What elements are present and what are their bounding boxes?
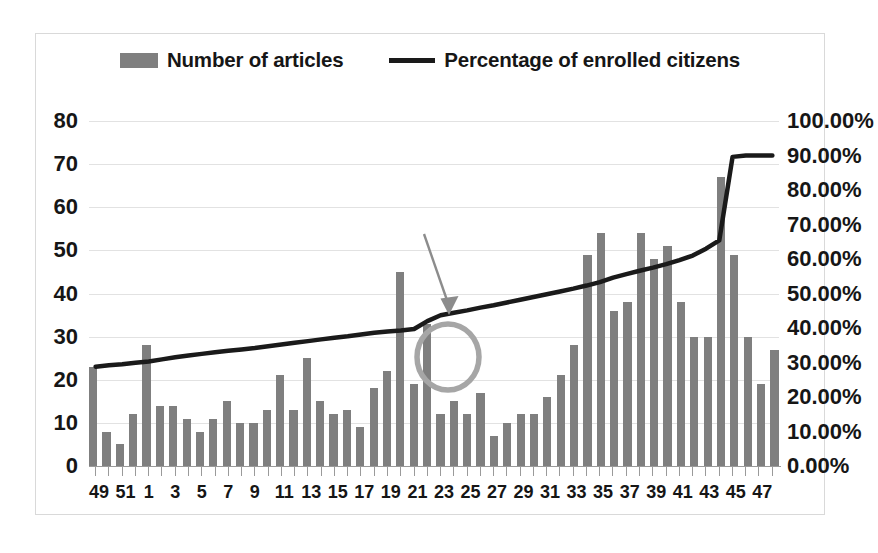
x-axis-tick-label: 31 <box>540 480 553 508</box>
bar <box>303 358 311 466</box>
bar <box>142 345 150 466</box>
bar <box>597 233 605 466</box>
x-axis-tick-mark <box>666 467 667 476</box>
x-axis-tick-label: 25 <box>460 480 473 508</box>
x-axis-tick-mark <box>480 467 481 476</box>
x-axis-tick-label: 43 <box>699 480 712 508</box>
x-axis-tick-mark <box>387 467 388 476</box>
bar <box>570 345 578 466</box>
plot-wrapper <box>89 121 779 466</box>
y-axis-right-tick-label: 0.00% <box>787 455 849 477</box>
y-axis-right-tick-label: 20.00% <box>787 386 862 408</box>
x-axis-tick-mark <box>347 467 348 476</box>
y-axis-right-tick-label: 70.00% <box>787 214 862 236</box>
x-axis-tick-mark <box>254 467 255 476</box>
x-axis-ticks <box>89 467 779 476</box>
legend-label-percentage-of-enrolled-citizens: Percentage of enrolled citizens <box>444 48 740 72</box>
bar <box>650 259 658 466</box>
y-axis-right-tick-label: 10.00% <box>787 421 862 443</box>
x-axis-tick-label: 29 <box>514 480 527 508</box>
bar <box>463 414 471 466</box>
y-axis-right-tick-label: 100.00% <box>787 110 874 132</box>
x-axis-tick-mark <box>705 467 706 476</box>
x-axis-tick-mark <box>374 467 375 476</box>
x-axis-tick-mark <box>108 467 109 476</box>
x-axis-tick-mark <box>639 467 640 476</box>
x-axis-tick-label: 49 <box>89 480 102 508</box>
y-axis-left-tick-label: 20 <box>54 369 78 391</box>
bar <box>757 384 765 466</box>
x-axis-tick-mark <box>414 467 415 476</box>
plot-area <box>89 121 779 466</box>
bar <box>610 311 618 466</box>
x-axis-tick-mark <box>241 467 242 476</box>
x-axis-tick-mark <box>440 467 441 476</box>
bar <box>183 419 191 466</box>
y-axis-left-tick-label: 50 <box>54 239 78 261</box>
bar <box>704 337 712 466</box>
x-axis-tick-mark <box>546 467 547 476</box>
x-axis-tick-mark <box>719 467 720 476</box>
bar <box>410 384 418 466</box>
x-axis-tick-label: 9 <box>248 480 261 508</box>
x-axis-tick-mark <box>573 467 574 476</box>
bar <box>423 324 431 466</box>
bar <box>770 350 778 466</box>
bar <box>637 233 645 466</box>
bar <box>223 401 231 466</box>
bar <box>156 406 164 466</box>
bar <box>396 272 404 466</box>
x-axis-labels: 49.51.1.3.5.7.9.11.13.15.17.19.21.23.25.… <box>89 480 779 508</box>
x-axis-tick-mark <box>453 467 454 476</box>
legend-entry-number-of-articles: Number of articles <box>120 48 343 72</box>
bar <box>196 432 204 467</box>
x-axis-tick-mark <box>745 467 746 476</box>
x-axis-tick-label: 41 <box>673 480 686 508</box>
bar <box>517 414 525 466</box>
x-axis-tick-label: 13 <box>301 480 314 508</box>
x-axis-tick-mark <box>599 467 600 476</box>
bar <box>343 410 351 466</box>
bar <box>690 337 698 466</box>
x-axis-tick-mark <box>175 467 176 476</box>
x-axis-tick-label: 27 <box>487 480 500 508</box>
bar <box>543 397 551 466</box>
x-axis-tick-mark <box>161 467 162 476</box>
x-axis-tick-mark <box>268 467 269 476</box>
x-axis-tick-label: 17 <box>354 480 367 508</box>
x-axis-tick-mark <box>95 467 96 476</box>
y-axis-right-tick-label: 40.00% <box>787 317 862 339</box>
bar <box>663 246 671 466</box>
y-axis-right-tick-label: 60.00% <box>787 248 862 270</box>
bar <box>383 371 391 466</box>
x-axis-tick-mark <box>467 467 468 476</box>
x-axis-tick-mark <box>533 467 534 476</box>
x-axis-tick-label: 21 <box>407 480 420 508</box>
y-axis-left: 01020304050607080 <box>36 121 82 466</box>
bar <box>503 423 511 466</box>
bar <box>744 337 752 466</box>
bar <box>450 401 458 466</box>
x-axis-tick-mark <box>427 467 428 476</box>
bar <box>623 302 631 466</box>
y-axis-left-tick-label: 70 <box>54 153 78 175</box>
x-axis-tick-mark <box>122 467 123 476</box>
bar <box>249 423 257 466</box>
bar <box>89 367 97 466</box>
y-axis-right: 0.00%10.00%20.00%30.00%40.00%50.00%60.00… <box>781 121 878 466</box>
x-axis-tick-mark <box>520 467 521 476</box>
x-axis-tick-mark <box>294 467 295 476</box>
legend-entry-percentage-of-enrolled-citizens: Percentage of enrolled citizens <box>389 48 740 72</box>
bar <box>530 414 538 466</box>
x-axis-tick-label: 19 <box>381 480 394 508</box>
bar <box>129 414 137 466</box>
x-axis-tick-label: 51 <box>116 480 129 508</box>
x-axis-tick-mark <box>626 467 627 476</box>
x-axis-tick-mark <box>679 467 680 476</box>
x-axis-tick-label: 45 <box>726 480 739 508</box>
bar <box>730 255 738 466</box>
bar <box>583 255 591 466</box>
x-axis-tick-mark <box>307 467 308 476</box>
bar <box>436 414 444 466</box>
bar <box>289 410 297 466</box>
